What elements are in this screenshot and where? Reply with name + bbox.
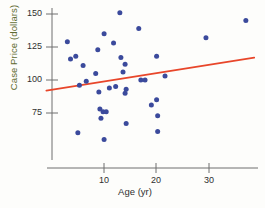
data-point [102,137,107,142]
data-point [68,56,73,61]
data-point [117,10,122,15]
data-point [111,41,116,46]
data-point [155,113,160,118]
scatter-plot-figure: Case Price (dollars) Age (yr) 150 125 10… [0,0,265,208]
data-point [104,109,109,114]
data-point [77,83,82,88]
data-point [65,39,70,44]
data-point [98,116,103,121]
data-point [84,79,89,84]
data-point [155,129,160,134]
data-point [121,70,126,75]
data-point [203,35,208,40]
x-tick-label-20: 20 [146,175,166,185]
data-point [93,71,98,76]
data-points [65,10,249,142]
data-point [154,97,159,102]
y-tick-label-75: 75 [16,107,42,117]
y-tick-label-150: 150 [16,8,42,18]
y-axis [46,8,58,160]
data-point [124,121,129,126]
data-point [73,54,78,59]
plot-canvas [0,0,265,208]
x-axis [47,163,258,173]
x-tick-label-10: 10 [94,175,114,185]
data-point [143,78,148,83]
y-tick-label-125: 125 [16,41,42,51]
data-point [75,130,80,135]
data-point [113,84,118,89]
data-point [136,26,141,31]
data-point [107,85,112,90]
data-point [123,62,128,67]
data-point [102,31,107,36]
x-axis-label: Age (yr) [90,186,180,197]
x-tick-label-30: 30 [199,175,219,185]
data-point [163,74,168,79]
y-tick-label-100: 100 [16,74,42,84]
data-point [118,55,123,60]
data-point [154,54,159,59]
data-point [96,89,101,94]
data-point [81,63,86,68]
data-point [243,18,248,23]
data-point [95,47,100,52]
data-point [149,103,154,108]
data-point [123,91,128,96]
